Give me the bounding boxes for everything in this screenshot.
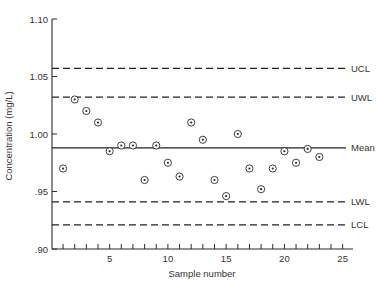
- ref-label-mean: Mean: [351, 142, 375, 153]
- x-tick-label: 20: [279, 253, 290, 264]
- data-point: [258, 186, 265, 193]
- data-point: [223, 193, 230, 200]
- reference-lines: UCLUWLMeanLWLLCL: [52, 63, 375, 230]
- ref-label-uwl: UWL: [351, 92, 372, 103]
- y-tick-label: 1.05: [30, 71, 49, 82]
- y-tick-label: 1.00: [30, 129, 49, 140]
- data-point: [141, 176, 148, 183]
- data-point: [316, 153, 323, 160]
- x-tick-label: 25: [337, 253, 348, 264]
- data-point: [211, 176, 218, 183]
- data-point: [59, 165, 66, 172]
- data-point: [246, 165, 253, 172]
- data-point: [118, 142, 125, 149]
- x-tick-label: 15: [221, 253, 232, 264]
- ref-label-lcl: LCL: [351, 219, 368, 230]
- x-axis-label: Sample number: [168, 268, 235, 279]
- data-point: [292, 159, 299, 166]
- y-tick-label: 1.10: [30, 14, 49, 25]
- data-point: [176, 173, 183, 180]
- y-tick-label: .95: [35, 186, 48, 197]
- data-point: [94, 119, 101, 126]
- data-point: [234, 130, 241, 137]
- control-chart: UCLUWLMeanLWLLCL .90.951.001.051.10 5101…: [0, 0, 386, 293]
- x-tick-label: 10: [163, 253, 174, 264]
- data-point: [164, 159, 171, 166]
- data-point: [304, 145, 311, 152]
- data-point: [129, 142, 136, 149]
- y-axis-label: Concentration (mg/L): [3, 91, 14, 180]
- axes: [52, 19, 353, 249]
- data-point: [269, 165, 276, 172]
- y-tick-label: .90: [35, 244, 48, 255]
- data-point: [106, 148, 113, 155]
- data-point: [83, 107, 90, 114]
- x-tick-label: 5: [107, 253, 112, 264]
- x-axis-tick-labels: 510152025: [107, 253, 348, 264]
- y-axis-tick-labels: .90.951.001.051.10: [30, 14, 49, 255]
- data-point: [281, 148, 288, 155]
- data-point: [199, 136, 206, 143]
- ref-label-ucl: UCL: [351, 63, 370, 74]
- data-point: [153, 142, 160, 149]
- data-point: [71, 96, 78, 103]
- ref-label-lwl: LWL: [351, 196, 370, 207]
- data-point: [188, 119, 195, 126]
